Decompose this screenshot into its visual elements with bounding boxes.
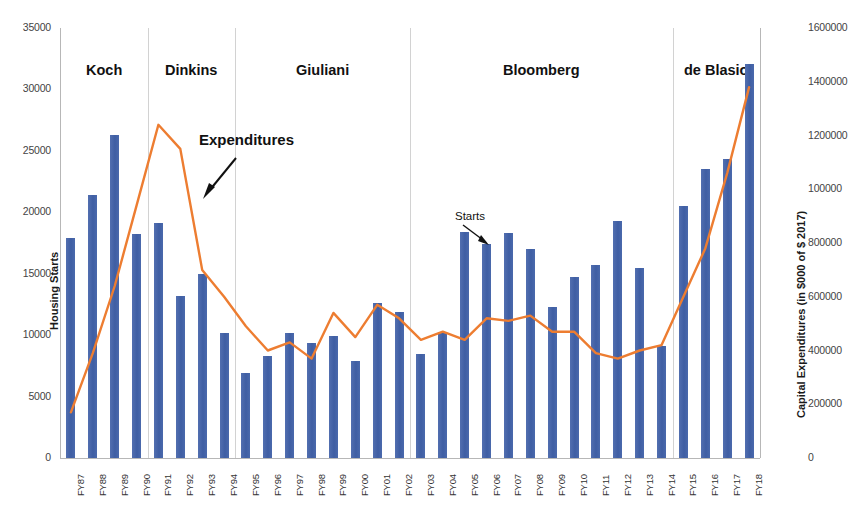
x-axis-tick: FY14 — [666, 474, 677, 496]
bar — [132, 234, 141, 458]
x-axis-tick: FY04 — [447, 474, 458, 496]
x-axis-tick: FY13 — [644, 474, 655, 496]
y-axis-right-line — [760, 28, 761, 458]
x-axis-tick: FY16 — [709, 474, 720, 496]
bar — [329, 336, 338, 458]
bar — [657, 346, 666, 458]
x-axis-tick: FY00 — [359, 474, 370, 496]
bar — [482, 244, 491, 458]
x-axis-tick: FY87 — [75, 474, 86, 496]
y-axis-left-tick: 10000 — [0, 328, 51, 340]
bar — [110, 135, 119, 458]
y-axis-left-tick: 25000 — [0, 144, 51, 156]
y-axis-right-tick: 600000 — [808, 290, 842, 302]
x-axis-tick: FY99 — [337, 474, 348, 496]
bar — [307, 343, 316, 458]
x-axis-tick: FY07 — [512, 474, 523, 496]
era-label-bloomberg: Bloomberg — [503, 62, 580, 78]
y-axis-left-title: Housing Starts — [48, 252, 60, 330]
y-axis-left-tick: 35000 — [0, 21, 51, 33]
x-axis-tick: FY93 — [206, 474, 217, 496]
x-axis-tick: FY08 — [534, 474, 545, 496]
bar — [438, 333, 447, 458]
x-axis-line — [60, 458, 760, 459]
era-divider — [673, 28, 674, 458]
x-axis-tick: FY90 — [141, 474, 152, 496]
x-axis-tick: FY02 — [403, 474, 414, 496]
x-axis-tick: FY88 — [97, 474, 108, 496]
bar — [548, 307, 557, 458]
bar — [679, 206, 688, 458]
era-label-koch: Koch — [86, 62, 122, 78]
x-axis-tick: FY92 — [184, 474, 195, 496]
bar — [263, 356, 272, 458]
x-axis-tick: FY09 — [556, 474, 567, 496]
bar — [723, 159, 732, 458]
era-divider — [235, 28, 236, 458]
x-axis-tick: FY96 — [272, 474, 283, 496]
expenditures-arrow — [203, 158, 236, 199]
y-axis-right-tick: 800000 — [808, 236, 842, 248]
bar — [154, 223, 163, 458]
bar — [613, 221, 622, 458]
x-axis-tick: FY97 — [294, 474, 305, 496]
bar — [198, 274, 207, 458]
annotation-expenditures: Expenditures — [199, 131, 294, 148]
x-axis-tick: FY11 — [600, 475, 611, 496]
x-axis-tick: FY95 — [250, 474, 261, 496]
x-axis-tick: FY98 — [316, 474, 327, 496]
y-axis-right-tick: 200000 — [808, 397, 842, 409]
x-axis-tick: FY94 — [228, 474, 239, 496]
x-axis-tick: FY01 — [381, 474, 392, 496]
y-axis-left-line — [60, 28, 61, 458]
bar — [745, 64, 754, 458]
bar — [373, 303, 382, 458]
bar — [504, 233, 513, 458]
bar — [526, 249, 535, 458]
bar — [66, 238, 75, 458]
x-axis-tick: FY03 — [425, 474, 436, 496]
bar — [460, 232, 469, 458]
bar — [351, 361, 360, 458]
y-axis-left-tick: 0 — [0, 451, 51, 463]
x-axis-tick: FY15 — [687, 474, 698, 496]
bar — [570, 277, 579, 458]
x-axis-tick: FY91 — [162, 474, 173, 496]
bar — [591, 265, 600, 458]
y-axis-left-tick: 30000 — [0, 82, 51, 94]
y-axis-left-tick: 5000 — [0, 390, 51, 402]
bar — [285, 333, 294, 458]
x-axis-tick: FY89 — [119, 474, 130, 496]
bar — [701, 169, 710, 458]
era-divider — [410, 28, 411, 458]
bar — [395, 312, 404, 458]
y-axis-right-tick: 1400000 — [808, 75, 847, 87]
era-label-dinkins: Dinkins — [165, 62, 217, 78]
y-axis-right-tick: 400000 — [808, 344, 842, 356]
x-axis-tick: FY05 — [469, 474, 480, 496]
x-axis-tick: FY12 — [622, 474, 633, 496]
y-axis-left-tick: 15000 — [0, 267, 51, 279]
y-axis-right-tick: 1600000 — [808, 21, 847, 33]
y-axis-right-tick: 1200000 — [808, 129, 847, 141]
bar — [88, 195, 97, 458]
x-axis-tick: FY18 — [753, 474, 764, 496]
bar — [220, 333, 229, 458]
y-axis-right-title: Capital Expenditures (in $000 of $ 2017) — [795, 211, 807, 418]
y-axis-right-tick: 0 — [808, 451, 814, 463]
x-axis-tick: FY10 — [578, 474, 589, 496]
chart-container: Housing Starts Capital Expenditures (in … — [0, 0, 867, 511]
x-axis-tick: FY06 — [491, 474, 502, 496]
x-axis-tick: FY17 — [731, 474, 742, 496]
y-axis-left-tick: 20000 — [0, 205, 51, 217]
era-label-de-blasio: de Blasio — [684, 62, 748, 78]
bar — [416, 354, 425, 458]
bar — [635, 268, 644, 458]
era-divider — [148, 28, 149, 458]
bar — [176, 296, 185, 458]
y-axis-right-tick: 100000 — [808, 182, 842, 194]
annotation-starts: Starts — [455, 210, 485, 222]
bar — [241, 373, 250, 458]
era-label-giuliani: Giuliani — [296, 62, 349, 78]
